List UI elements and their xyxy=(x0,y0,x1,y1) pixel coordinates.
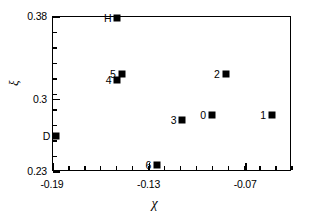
plot-area: H542D3016 xyxy=(52,16,291,171)
data-point-marker xyxy=(222,71,229,78)
x-axis-minor-tick xyxy=(132,166,133,170)
data-point-label: 0 xyxy=(200,109,206,121)
x-axis-major-tick xyxy=(245,163,246,170)
y-axis-tick-label: 0.3 xyxy=(8,93,47,105)
x-axis-title: χ xyxy=(0,196,309,212)
x-axis-minor-tick xyxy=(259,166,260,170)
y-axis-minor-tick xyxy=(53,63,57,64)
x-axis-minor-tick xyxy=(180,166,181,170)
data-point-label: 1 xyxy=(260,109,266,121)
y-axis-minor-tick xyxy=(53,156,57,157)
data-point-marker xyxy=(179,116,186,123)
y-axis-tick-label: 0.38 xyxy=(8,10,47,22)
y-axis-minor-tick xyxy=(53,78,57,79)
x-axis-minor-tick xyxy=(196,166,197,170)
y-axis-minor-tick xyxy=(53,140,57,141)
y-axis-tick-label: 0.23 xyxy=(8,165,47,177)
data-point-marker xyxy=(114,15,121,22)
x-axis-tick-label: -0.19 xyxy=(41,178,64,190)
data-point-label: 6 xyxy=(145,159,151,171)
y-axis-minor-tick xyxy=(53,47,57,48)
x-axis-minor-tick xyxy=(212,166,213,170)
y-axis-title: ξ xyxy=(6,80,22,86)
y-axis-minor-tick xyxy=(53,109,57,110)
y-axis-minor-tick xyxy=(53,32,57,33)
y-axis-major-tick xyxy=(53,171,60,172)
y-axis-major-tick xyxy=(53,99,60,100)
x-axis-tick-label: -0.13 xyxy=(137,178,160,190)
x-axis-minor-tick xyxy=(84,166,85,170)
data-point-marker xyxy=(268,111,275,118)
data-point-label: 3 xyxy=(171,114,177,126)
data-point-marker xyxy=(154,161,161,168)
x-axis-minor-tick xyxy=(116,166,117,170)
data-point-label: D xyxy=(43,130,50,142)
x-axis-major-tick xyxy=(52,163,53,170)
y-axis-minor-tick xyxy=(53,94,57,95)
data-point-marker xyxy=(114,76,121,83)
y-axis-minor-tick xyxy=(53,125,57,126)
x-axis-minor-tick xyxy=(68,166,69,170)
scatter-plot-figure: ξ 0.230.30.38 -0.19-0.13-0.07 H542D3016 … xyxy=(0,0,309,216)
x-axis-minor-tick xyxy=(228,166,229,170)
data-point-marker xyxy=(53,133,60,140)
data-point-label: 2 xyxy=(214,68,220,80)
data-point-label: H xyxy=(104,12,111,24)
data-point-marker xyxy=(208,111,215,118)
y-axis-major-tick xyxy=(53,16,60,17)
data-point-label: 4 xyxy=(106,74,112,86)
x-axis-minor-tick xyxy=(275,166,276,170)
x-axis-minor-tick xyxy=(100,166,101,170)
x-axis-minor-tick xyxy=(291,166,292,170)
x-axis-minor-tick xyxy=(164,166,165,170)
x-axis-tick-label: -0.07 xyxy=(234,178,257,190)
